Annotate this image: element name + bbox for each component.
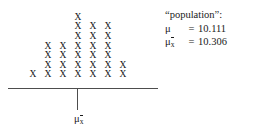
dotplot-column: X	[27, 70, 39, 80]
mu-symbol: μ	[165, 22, 185, 35]
annotation-block: “population”: μ = 10.111 μx = 10.306	[165, 8, 253, 51]
dotplot-mark: X	[105, 70, 112, 80]
mu-xbar-row: μx = 10.306	[165, 35, 253, 51]
axis-label-mu-xbar: μx	[62, 113, 96, 128]
dotplot-column: XXXXXX	[87, 22, 99, 80]
axis-line	[8, 88, 158, 89]
dotplot-mark: X	[90, 70, 97, 80]
mu-row: μ = 10.111	[165, 22, 253, 35]
mu-xbar-subscript-letter: x	[171, 38, 175, 51]
dotplot-mark: X	[30, 70, 37, 80]
mu-xbar-equals-sign: =	[185, 35, 198, 48]
dotplot-column: XXXXXX	[102, 22, 114, 80]
mu-equals-sign: =	[185, 22, 198, 35]
dotplot-mark: X	[120, 70, 127, 80]
axis-tick-mu-xbar	[77, 88, 78, 110]
dotplot-column: XXXX	[57, 42, 69, 80]
axis-label-mu-symbol: μ	[74, 113, 80, 124]
dotplot: XXXXXXXXXXXXXXXXXXXXXXXXXXXXXX	[24, 4, 150, 80]
dotplot-mark: X	[75, 70, 82, 80]
axis-label-xbar-letter: x	[80, 116, 84, 128]
dotplot-column: XXXX	[42, 42, 54, 80]
dotplot-mark: X	[60, 70, 67, 80]
mu-xbar-subscript: x	[171, 40, 175, 49]
figure-canvas: XXXXXXXXXXXXXXXXXXXXXXXXXXXXXX μx “popul…	[0, 0, 254, 134]
population-label: “population”:	[165, 8, 253, 21]
dotplot-column: XXXXXXX	[72, 13, 84, 80]
dotplot-mark: X	[45, 70, 52, 80]
mu-value: 10.111	[198, 22, 226, 35]
dotplot-column: XX	[117, 61, 129, 80]
mu-xbar-value: 10.306	[198, 35, 227, 48]
axis-label-xbar-subscript: x	[80, 117, 84, 126]
mu-xbar-symbol-group: μx	[165, 35, 185, 51]
